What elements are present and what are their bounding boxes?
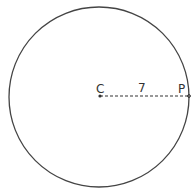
radius-label: 7 <box>138 81 146 95</box>
point-label: P <box>178 82 185 96</box>
center-label: C <box>96 82 104 96</box>
circle-diagram: C 7 P <box>0 0 196 192</box>
